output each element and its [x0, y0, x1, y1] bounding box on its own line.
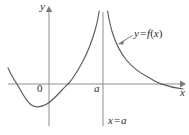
curve-left-branch	[8, 11, 99, 107]
function-label-close-paren: )	[159, 27, 163, 39]
function-label-arrow-icon	[119, 40, 125, 45]
origin-label: 0	[37, 83, 43, 94]
graph-canvas	[0, 0, 189, 135]
asymptote-label-a: a	[121, 114, 127, 126]
x-axis-label: x	[180, 87, 185, 98]
function-label: y=f(x)	[134, 28, 162, 39]
function-graph-figure: y x 0 a x=a y=f(x)	[0, 0, 189, 135]
y-axis-label: y	[40, 1, 45, 12]
y-axis-arrow-icon	[46, 6, 52, 12]
asymptote-label-equals: =	[113, 114, 121, 126]
function-label-equals: =	[139, 27, 147, 39]
curve-right-branch	[108, 11, 183, 89]
x-tick-label-a: a	[94, 83, 100, 94]
asymptote-label: x=a	[108, 115, 127, 126]
